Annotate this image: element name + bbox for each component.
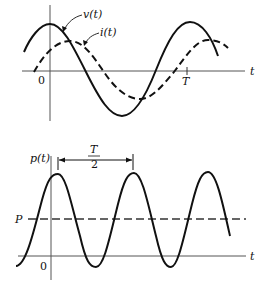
arrow-right-icon bbox=[126, 158, 132, 163]
v-label-leader bbox=[64, 15, 82, 30]
top-t-label: t bbox=[250, 65, 255, 78]
voltage-label: v(t) bbox=[83, 8, 102, 21]
bottom-t-label: t bbox=[250, 250, 255, 263]
average-power-label: P bbox=[14, 213, 23, 226]
voltage-curve bbox=[24, 22, 218, 116]
power-axis-label: p(t) bbox=[30, 152, 50, 165]
bottom-origin-label: 0 bbox=[40, 260, 47, 273]
top-origin-label: 0 bbox=[38, 74, 45, 87]
current-curve bbox=[34, 40, 228, 99]
bottom-plot: T 2 p(t) P t 0 bbox=[14, 143, 255, 280]
current-label: i(t) bbox=[100, 26, 117, 39]
arrow-left-icon bbox=[59, 158, 65, 163]
half-period-denominator: 2 bbox=[91, 158, 98, 171]
half-period-numerator: T bbox=[90, 143, 99, 156]
period-label: T bbox=[182, 75, 191, 88]
top-plot: v(t) i(t) t 0 T bbox=[22, 5, 255, 121]
diagram-canvas: v(t) i(t) t 0 T T 2 p(t) P t 0 bbox=[0, 0, 275, 294]
